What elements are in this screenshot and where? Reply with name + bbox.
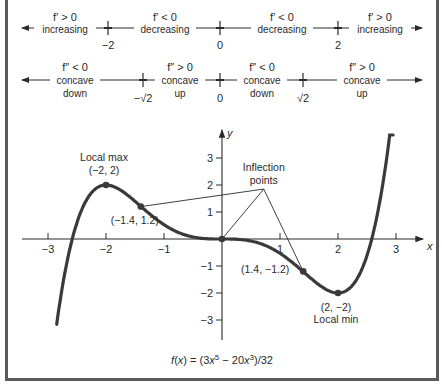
x-axis-label: x bbox=[426, 240, 433, 252]
y-axis-label: y bbox=[226, 127, 234, 139]
critical-point-label: −2 bbox=[102, 39, 115, 51]
inflection-annotation: Inflection bbox=[243, 161, 285, 173]
interval-condition: f′ < 0 bbox=[270, 11, 294, 23]
interval-condition: f″ < 0 bbox=[62, 61, 88, 73]
inflection-coords: (−1.4, 1.2) bbox=[111, 214, 159, 226]
interval-condition: f″ > 0 bbox=[349, 61, 375, 73]
x-tick-label: 3 bbox=[393, 243, 399, 255]
inflection-point bbox=[138, 203, 145, 210]
first-derivative-sign-chart: f′ > 0increasingf′ < 0decreasingf′ < 0de… bbox=[22, 11, 422, 51]
interval-condition: f′ > 0 bbox=[368, 11, 392, 23]
y-tick-label: 3 bbox=[207, 152, 213, 164]
interval-description: concave bbox=[161, 75, 199, 86]
x-tick-label: −1 bbox=[158, 243, 171, 255]
inflection-point bbox=[300, 268, 307, 275]
interval-description: increasing bbox=[42, 24, 88, 35]
critical-point-label: 0 bbox=[217, 92, 223, 104]
critical-point-label: √2 bbox=[297, 92, 309, 104]
interval-condition: f′ > 0 bbox=[53, 11, 77, 23]
x-tick-label: 2 bbox=[335, 243, 341, 255]
y-tick-label: 1 bbox=[207, 206, 213, 218]
second-derivative-sign-chart: f″ < 0concavedownf″ > 0concaveupf″ < 0co… bbox=[22, 61, 422, 104]
y-tick-label: −2 bbox=[200, 287, 213, 299]
local-max-point bbox=[103, 182, 110, 189]
critical-point-label: 2 bbox=[335, 39, 341, 51]
inflection-coords: (1.4, −1.2) bbox=[241, 263, 289, 275]
interval-condition: f″ < 0 bbox=[249, 61, 275, 73]
y-tick-label: −1 bbox=[200, 260, 213, 272]
interval-description: decreasing bbox=[258, 24, 307, 35]
interval-description: concave bbox=[243, 75, 281, 86]
interval-description: down bbox=[63, 88, 87, 99]
local-min-label: Local min bbox=[314, 313, 359, 325]
interval-description: down bbox=[250, 88, 274, 99]
local-max-coords: (−2, 2) bbox=[89, 164, 120, 176]
inflection-annotation: points bbox=[250, 174, 278, 186]
interval-description: up bbox=[356, 88, 368, 99]
inflection-point bbox=[219, 236, 226, 243]
interval-condition: f′ < 0 bbox=[153, 11, 177, 23]
local-min-coords: (2, −2) bbox=[321, 301, 352, 313]
interval-description: concave bbox=[343, 75, 381, 86]
interval-condition: f″ > 0 bbox=[167, 61, 193, 73]
x-tick-label: −2 bbox=[100, 243, 113, 255]
y-tick-label: −3 bbox=[200, 314, 213, 326]
leader-line bbox=[264, 189, 303, 271]
local-max-label: Local max bbox=[80, 151, 129, 163]
figure-canvas: f′ > 0increasingf′ < 0decreasingf′ < 0de… bbox=[0, 0, 442, 386]
interval-description: up bbox=[174, 88, 186, 99]
x-tick-label: −3 bbox=[42, 243, 55, 255]
local-min-point bbox=[335, 290, 342, 297]
interval-description: decreasing bbox=[141, 24, 190, 35]
function-caption: f(x) = (3x5 − 20x3)/32 bbox=[171, 353, 273, 366]
interval-description: increasing bbox=[357, 24, 403, 35]
critical-point-label: 0 bbox=[217, 39, 223, 51]
interval-description: concave bbox=[56, 75, 94, 86]
y-tick-label: 2 bbox=[207, 179, 213, 191]
leader-line bbox=[222, 189, 264, 239]
critical-point-label: −√2 bbox=[134, 92, 153, 104]
leader-line bbox=[141, 189, 264, 207]
